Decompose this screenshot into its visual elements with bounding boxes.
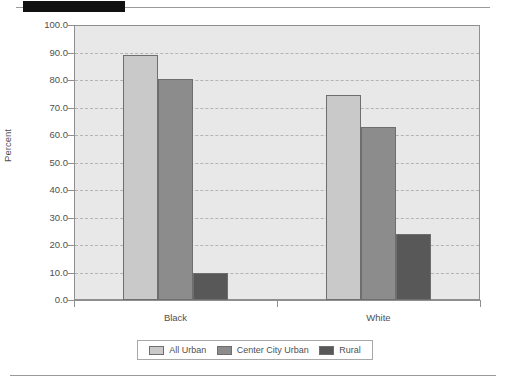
- legend-item-rural[interactable]: Rural: [319, 345, 361, 355]
- legend-item-all-urban[interactable]: All Urban: [149, 345, 206, 355]
- y-axis-tick: [68, 135, 75, 136]
- bar-white-all-urban: [326, 95, 361, 300]
- y-axis-tick-label: 40.0: [26, 185, 68, 195]
- x-axis-tick: [480, 301, 481, 307]
- legend-swatch-icon: [217, 346, 232, 355]
- legend-label: Center City Urban: [237, 345, 309, 355]
- y-axis-tick: [68, 163, 75, 164]
- bar-black-all-urban: [123, 55, 158, 300]
- bar-chart-figure: 100.090.080.070.060.050.040.030.020.010.…: [0, 0, 506, 390]
- y-axis-tick-label: 60.0: [26, 130, 68, 140]
- y-axis-labels: 100.090.080.070.060.050.040.030.020.010.…: [20, 0, 68, 390]
- legend-swatch-icon: [319, 346, 334, 355]
- y-axis-tick: [68, 108, 75, 109]
- y-axis-tick-label: 30.0: [26, 213, 68, 223]
- footer-rule: [10, 375, 496, 376]
- y-axis-tick-label: 80.0: [26, 75, 68, 85]
- y-axis-tick: [68, 80, 75, 81]
- x-axis-tick: [74, 301, 75, 307]
- y-axis-tick-label: 0.0: [26, 295, 68, 305]
- y-axis-tick: [68, 245, 75, 246]
- legend-label: All Urban: [169, 345, 206, 355]
- gridline: [75, 53, 479, 54]
- y-axis-tick: [68, 190, 75, 191]
- y-axis-tick-label: 20.0: [26, 240, 68, 250]
- x-axis-category-label: White: [366, 312, 390, 323]
- chart-legend: All UrbanCenter City UrbanRural: [137, 340, 373, 360]
- y-axis-tick: [68, 218, 75, 219]
- y-axis-tick: [68, 25, 75, 26]
- bar-white-center-city-urban: [361, 127, 396, 300]
- legend-item-center-city-urban[interactable]: Center City Urban: [217, 345, 309, 355]
- bar-white-rural: [396, 234, 431, 300]
- y-axis-tick-label: 50.0: [26, 158, 68, 168]
- y-axis-tick: [68, 273, 75, 274]
- legend-swatch-icon: [149, 346, 164, 355]
- x-axis-category-label: Black: [164, 312, 187, 323]
- bar-black-center-city-urban: [158, 79, 193, 300]
- y-axis-tick: [68, 53, 75, 54]
- legend-label: Rural: [339, 345, 361, 355]
- y-axis-tick-label: 70.0: [26, 103, 68, 113]
- x-axis-tick: [277, 301, 278, 307]
- y-axis-title: Percent: [2, 129, 13, 162]
- y-axis-tick-label: 10.0: [26, 268, 68, 278]
- y-axis-tick-label: 100.0: [26, 20, 68, 30]
- y-axis-tick-label: 90.0: [26, 48, 68, 58]
- bar-black-rural: [193, 273, 228, 301]
